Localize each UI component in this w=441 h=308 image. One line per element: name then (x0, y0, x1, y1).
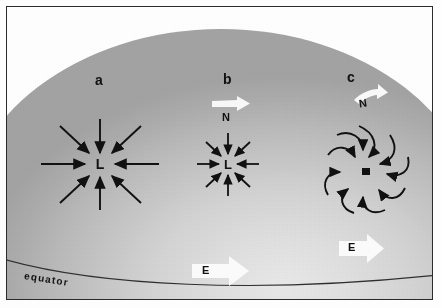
east-arrow-c (339, 234, 384, 263)
panel-c-low-center-mark (362, 168, 370, 175)
panel-letter-b: b (223, 72, 232, 86)
east-arrow-b (192, 256, 249, 286)
panel-letter-a: a (95, 73, 103, 87)
north-label-b: N (222, 112, 230, 123)
north-label-c: N (358, 98, 367, 110)
north-arrow-b (212, 96, 250, 111)
panel-letter-c: c (347, 70, 355, 84)
panel-b-low-center-label: L (224, 157, 232, 172)
diagram-vector-layer: L L (7, 7, 433, 300)
east-label-c: E (348, 242, 355, 253)
panel-a-low-center-label: L (96, 156, 105, 172)
east-label-b: E (202, 265, 209, 276)
figure-frame: L L (6, 6, 433, 300)
figure-canvas: L L (0, 0, 441, 308)
